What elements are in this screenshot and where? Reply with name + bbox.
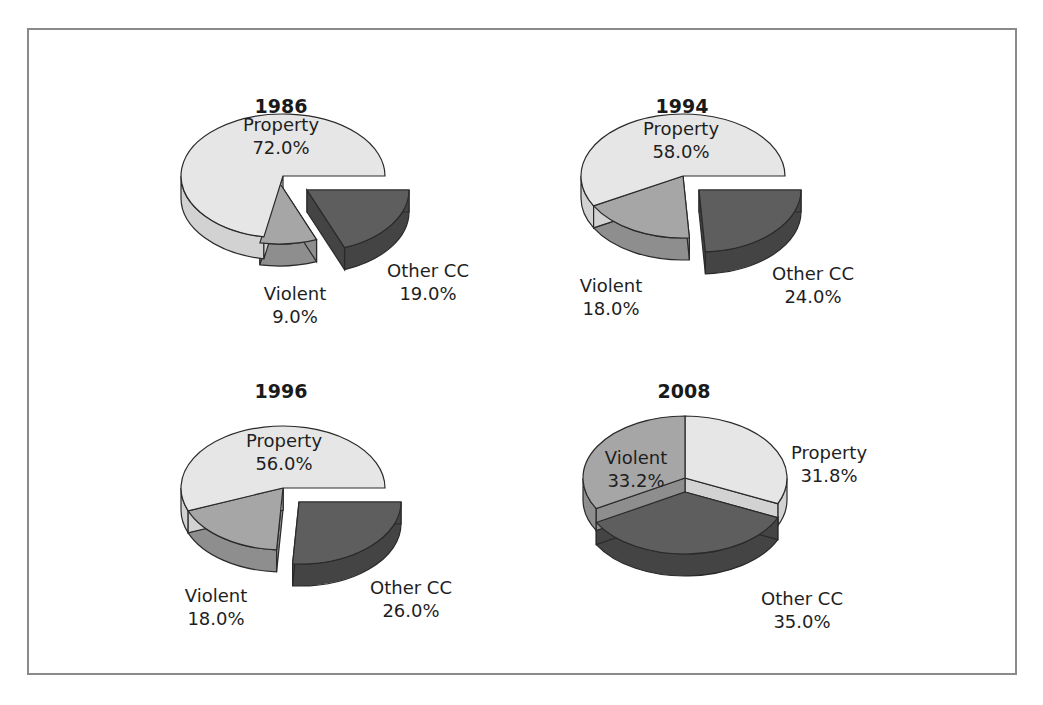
label-name: Other CC xyxy=(387,259,469,282)
label-name: Other CC xyxy=(761,587,843,610)
label-name: Violent xyxy=(185,584,247,607)
label-name: Other CC xyxy=(370,576,452,599)
label-value: 31.8% xyxy=(791,464,867,487)
label-value: 18.0% xyxy=(580,297,642,320)
label-name: Violent xyxy=(605,446,667,469)
label-violent-2008: Violent 33.2% xyxy=(605,446,667,492)
pie-charts-canvas xyxy=(0,0,1043,705)
pie-2008 xyxy=(583,416,787,576)
label-name: Violent xyxy=(264,282,326,305)
label-property-1996: Property 56.0% xyxy=(246,429,322,475)
label-property-1994: Property 58.0% xyxy=(643,117,719,163)
label-other-2008: Other CC 35.0% xyxy=(761,587,843,633)
label-name: Property xyxy=(243,113,319,136)
chart-title-2008: 2008 xyxy=(658,380,711,402)
label-name: Property xyxy=(643,117,719,140)
label-value: 56.0% xyxy=(246,452,322,475)
chart-title-1996: 1996 xyxy=(255,380,308,402)
label-name: Violent xyxy=(580,274,642,297)
label-value: 35.0% xyxy=(761,610,843,633)
label-violent-1996: Violent 18.0% xyxy=(185,584,247,630)
label-value: 18.0% xyxy=(185,607,247,630)
label-value: 33.2% xyxy=(605,469,667,492)
label-property-1986: Property 72.0% xyxy=(243,113,319,159)
label-value: 19.0% xyxy=(387,282,469,305)
label-other-1986: Other CC 19.0% xyxy=(387,259,469,305)
label-property-2008: Property 31.8% xyxy=(791,441,867,487)
label-value: 72.0% xyxy=(243,136,319,159)
label-name: Property xyxy=(246,429,322,452)
label-value: 58.0% xyxy=(643,140,719,163)
label-name: Property xyxy=(791,441,867,464)
label-other-1994: Other CC 24.0% xyxy=(772,262,854,308)
chart-title-1994: 1994 xyxy=(656,95,709,117)
label-violent-1986: Violent 9.0% xyxy=(264,282,326,328)
label-value: 24.0% xyxy=(772,285,854,308)
label-violent-1994: Violent 18.0% xyxy=(580,274,642,320)
label-other-1996: Other CC 26.0% xyxy=(370,576,452,622)
label-name: Other CC xyxy=(772,262,854,285)
label-value: 26.0% xyxy=(370,599,452,622)
label-value: 9.0% xyxy=(264,305,326,328)
